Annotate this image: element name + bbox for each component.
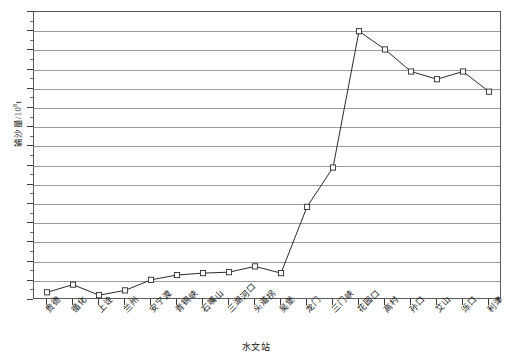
y-axis-minor-tick-mark xyxy=(30,270,33,271)
y-axis-title-exponent: 8 xyxy=(12,104,18,107)
y-axis-minor-tick-mark xyxy=(30,136,33,137)
y-axis-title-text: 输沙量/10 xyxy=(13,107,23,147)
y-axis-minor-tick-mark xyxy=(30,193,33,194)
y-axis-minor-tick-mark xyxy=(30,174,33,175)
y-axis-minor-tick-mark xyxy=(30,78,33,79)
y-axis-tick-mark xyxy=(27,107,33,108)
y-axis-tick-mark xyxy=(27,222,33,223)
sediment-load-line-chart: 输沙量/108t 0123456789101112131415 贵德循化上诠兰州… xyxy=(0,0,512,360)
y-axis-minor-tick-mark xyxy=(30,289,33,290)
y-axis-tick-mark xyxy=(27,280,33,281)
y-axis-tick-mark xyxy=(27,299,33,300)
y-axis-tick-mark xyxy=(27,261,33,262)
y-axis-minor-tick-mark xyxy=(30,232,33,233)
y-axis-minor-tick-mark xyxy=(30,59,33,60)
y-axis-minor-tick-mark xyxy=(30,40,33,41)
y-axis-tick-mark xyxy=(27,126,33,127)
y-axis-tick-mark xyxy=(27,145,33,146)
y-axis-tick-mark xyxy=(27,184,33,185)
y-axis-tick-mark xyxy=(27,49,33,50)
y-axis-title: 输沙量/108t xyxy=(11,81,23,167)
y-axis-tick-mark xyxy=(27,11,33,12)
y-axis-minor-tick-mark xyxy=(30,97,33,98)
y-axis-tick-mark xyxy=(27,69,33,70)
y-axis-minor-tick-mark xyxy=(30,21,33,22)
y-axis-minor-tick-mark xyxy=(30,155,33,156)
y-axis-title-unit: t xyxy=(13,101,23,104)
y-axis-tick-mark xyxy=(27,88,33,89)
y-axis-tick-mark xyxy=(27,203,33,204)
y-axis-minor-tick-mark xyxy=(30,213,33,214)
y-axis-tick-mark xyxy=(27,241,33,242)
y-axis-minor-tick-mark xyxy=(30,117,33,118)
x-axis-title: 水文站 xyxy=(0,340,512,353)
y-axis-tick-mark xyxy=(27,30,33,31)
axis-tick-layer: 0123456789101112131415 xyxy=(33,11,501,299)
y-axis-tick-mark xyxy=(27,165,33,166)
y-axis-minor-tick-mark xyxy=(30,251,33,252)
